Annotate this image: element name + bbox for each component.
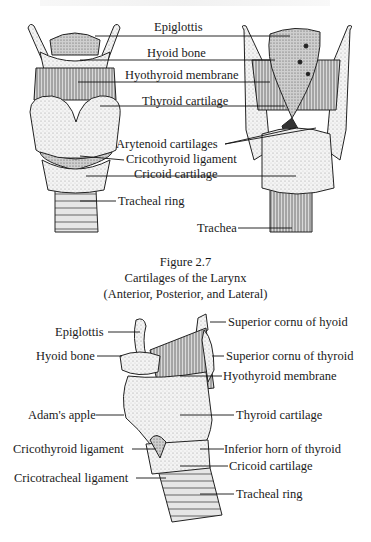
- label-cricothyroid-ligament: Cricothyroid ligament: [126, 152, 237, 166]
- lateral-label-cricothyroid-ligament: Cricothyroid ligament: [13, 442, 124, 456]
- figure-number: Figure 2.7: [0, 254, 371, 270]
- lateral-label-hyoid-bone: Hyoid bone: [36, 349, 95, 363]
- label-trachea: Trachea: [197, 221, 237, 235]
- lateral-label-superior-cornu-thyroid: Superior cornu of thyroid: [226, 349, 353, 363]
- label-thyroid-cartilage: Thyroid cartilage: [142, 94, 228, 108]
- lateral-label-thyroid-cartilage: Thyroid cartilage: [236, 408, 322, 422]
- label-arytenoid-cartilages: Arytenoid cartilages: [116, 137, 218, 151]
- label-hyoid-bone: Hyoid bone: [147, 46, 206, 60]
- lateral-label-cricotracheal-ligament: Cricotracheal ligament: [14, 471, 128, 485]
- figure-title: Cartilages of the Larynx: [0, 270, 371, 286]
- lateral-label-epiglottis: Epiglottis: [55, 325, 104, 339]
- label-cricoid-cartilage: Cricoid cartilage: [134, 167, 218, 181]
- lateral-label-superior-cornu-hyoid: Superior cornu of hyoid: [228, 315, 348, 329]
- label-tracheal-ring: Tracheal ring: [118, 194, 185, 208]
- label-hyothyroid-membrane: Hyothyroid membrane: [125, 68, 239, 82]
- lateral-label-cricoid-cartilage: Cricoid cartilage: [229, 459, 313, 473]
- lateral-label-adams-apple: Adam's apple: [28, 408, 96, 422]
- lateral-label-tracheal-ring: Tracheal ring: [236, 487, 303, 501]
- lateral-label-hyothyroid-membrane: Hyothyroid membrane: [223, 369, 337, 383]
- label-epiglottis: Epiglottis: [154, 20, 203, 34]
- lateral-label-inferior-horn-thyroid: Inferior horn of thyroid: [224, 442, 341, 456]
- posterior-view-drawing: [242, 26, 351, 233]
- figure-subtitle: (Anterior, Posterior, and Lateral): [0, 286, 371, 302]
- lateral-view-drawing: [120, 314, 222, 522]
